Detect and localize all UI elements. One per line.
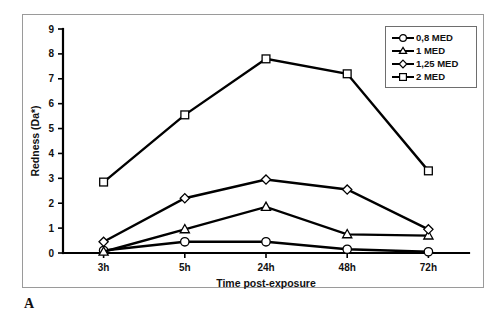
x-axis-title: Time post-exposure <box>216 277 316 289</box>
legend: 0,8 MED 1 MED 1,25 MED 2 MED <box>385 26 477 88</box>
y-tick-label: 8 <box>48 48 54 59</box>
panel-letter: A <box>24 296 34 312</box>
legend-marker-square-icon <box>391 71 415 83</box>
legend-item: 2 MED <box>391 70 472 83</box>
y-tick-label: 5 <box>48 123 54 134</box>
x-tick-label: 24h <box>257 262 274 273</box>
legend-label-2: 1,25 MED <box>416 58 458 69</box>
data-point-circle <box>343 245 351 253</box>
y-axis-title: Redness (Da*) <box>29 105 41 176</box>
series-3 <box>100 55 433 186</box>
data-point-diamond <box>99 237 108 246</box>
data-point-diamond <box>343 185 352 194</box>
y-tick-label: 3 <box>48 173 54 184</box>
series-1 <box>99 202 433 255</box>
data-point-square <box>262 55 270 63</box>
x-tick-label: 72h <box>420 262 437 273</box>
x-tick-label: 48h <box>339 262 356 273</box>
y-tick-label: 6 <box>48 98 54 109</box>
data-point-circle <box>181 238 189 246</box>
legend-item: 0,8 MED <box>391 31 472 44</box>
x-tick-label: 5h <box>179 262 191 273</box>
legend-item: 1,25 MED <box>391 57 472 70</box>
data-point-triangle <box>261 202 270 210</box>
y-tick-label: 2 <box>48 198 54 209</box>
series-group <box>99 55 433 256</box>
legend-marker-diamond-icon <box>391 58 415 70</box>
legend-item: 1 MED <box>391 44 472 57</box>
data-point-circle <box>424 248 432 256</box>
legend-marker-triangle-icon <box>391 45 415 57</box>
data-point-diamond <box>424 225 433 234</box>
data-point-circle <box>262 238 270 246</box>
data-point-square <box>181 111 189 119</box>
y-tick-label: 4 <box>48 148 54 159</box>
legend-label-3: 2 MED <box>416 71 445 82</box>
y-tick-label: 1 <box>48 223 54 234</box>
legend-label-0: 0,8 MED <box>416 32 453 43</box>
legend-label-1: 1 MED <box>416 45 445 56</box>
legend-marker-circle-icon <box>391 32 415 44</box>
data-point-square <box>100 178 108 186</box>
data-point-diamond <box>180 194 189 203</box>
data-point-diamond <box>261 175 270 184</box>
x-tick-label: 3h <box>98 262 110 273</box>
y-tick-label: 0 <box>48 248 54 259</box>
y-tick-label: 9 <box>48 24 54 35</box>
data-point-square <box>343 70 351 78</box>
series-line <box>104 59 429 182</box>
figure-panel-a: 01234567893h5h24h48h72hTime post-exposur… <box>0 0 500 325</box>
y-tick-label: 7 <box>48 73 54 84</box>
data-point-square <box>425 167 433 175</box>
